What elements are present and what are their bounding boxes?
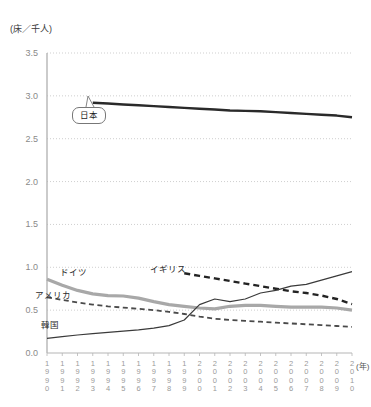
x-axis-tick-label: 2006 [286,360,297,394]
chart-container: (床／千人) 0.00.51.01.52.02.53.03.5 19901991… [0,0,371,407]
series-callout-japan: 日本 [72,107,106,124]
series-label-usa: アメリカ [35,288,71,300]
y-axis-tick-label: 2.0 [12,177,38,187]
x-axis-tick-label: 1997 [148,360,159,394]
x-axis-tick-digit: 7 [148,385,159,393]
x-axis-tick-digit: 6 [286,385,297,393]
x-axis-tick-label: 1992 [72,360,83,394]
x-axis-tick-label: 1990 [42,360,53,394]
callout-pointer [86,96,88,107]
x-axis-tick-digit: 0 [194,385,205,393]
x-axis-tick-label: 1998 [164,360,175,394]
x-axis-tick-digit: 1 [209,385,220,393]
x-axis-tick-digit: 8 [164,385,175,393]
x-axis-tick-label: 2009 [331,360,342,394]
chart-plot-area [0,0,371,407]
x-axis-tick-digit: 4 [255,385,266,393]
series-line-usa [47,297,352,327]
x-axis-tick-digit: 6 [133,385,144,393]
series-label-germany: ドイツ [60,265,87,277]
y-axis-tick-label: 3.0 [12,91,38,101]
callout-pointer [88,96,94,107]
x-axis-tick-digit: 0 [347,385,358,393]
x-axis-tick-digit: 9 [331,385,342,393]
series-label-uk: イギリス [150,262,186,274]
x-axis-label: (年) [356,360,369,371]
x-axis-tick-digit: 9 [179,385,190,393]
x-axis-tick-label: 2008 [316,360,327,394]
x-axis-tick-label: 1993 [87,360,98,394]
y-axis-tick-label: 3.5 [12,48,38,58]
x-axis-tick-label: 1995 [118,360,129,394]
x-axis-tick-label: 1996 [133,360,144,394]
x-axis-tick-digit: 7 [301,385,312,393]
x-axis-tick-label: 1999 [179,360,190,394]
x-axis-tick-label: 2004 [255,360,266,394]
x-axis-tick-label: 2000 [194,360,205,394]
x-axis-tick-digit: 5 [270,385,281,393]
x-axis-tick-label: 2007 [301,360,312,394]
x-axis-tick-digit: 2 [225,385,236,393]
x-axis-tick-label: 2005 [270,360,281,394]
x-axis-tick-digit: 0 [42,385,53,393]
y-axis-tick-label: 1.0 [12,262,38,272]
y-axis-tick-label: 0.0 [12,348,38,358]
x-axis-tick-label: 2003 [240,360,251,394]
x-axis-tick-digit: 2 [72,385,83,393]
x-axis-tick-digit: 3 [87,385,98,393]
x-axis-tick-digit: 3 [240,385,251,393]
series-line-japan [93,103,352,118]
series-line-uk [184,273,352,304]
x-axis-tick-label: 2001 [209,360,220,394]
x-axis-tick-label: 1994 [103,360,114,394]
y-axis-tick-label: 2.5 [12,134,38,144]
x-axis-tick-digit: 8 [316,385,327,393]
x-axis-tick-label: 2002 [225,360,236,394]
x-axis-tick-digit: 1 [57,385,68,393]
y-axis-tick-label: 1.5 [12,219,38,229]
series-label-korea: 韓国 [41,318,59,330]
x-axis-tick-label: 1991 [57,360,68,394]
y-axis-tick-label: 0.5 [12,305,38,315]
x-axis-tick-digit: 4 [103,385,114,393]
x-axis-tick-digit: 5 [118,385,129,393]
